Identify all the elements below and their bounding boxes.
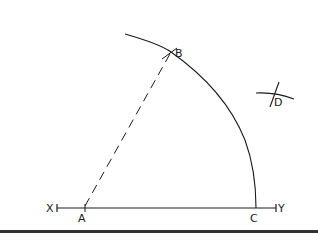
label-y: Y <box>277 202 285 215</box>
label-a: A <box>78 212 86 225</box>
label-x: X <box>46 202 54 215</box>
arc-bc <box>125 34 256 208</box>
construction-diagram: X Y A B C D <box>0 0 318 235</box>
label-d: D <box>274 96 282 109</box>
label-b: B <box>175 47 183 60</box>
label-c: C <box>250 212 258 225</box>
bottom-border <box>0 230 318 233</box>
dashed-line-ab <box>85 52 171 206</box>
baseline-xy <box>57 204 276 212</box>
